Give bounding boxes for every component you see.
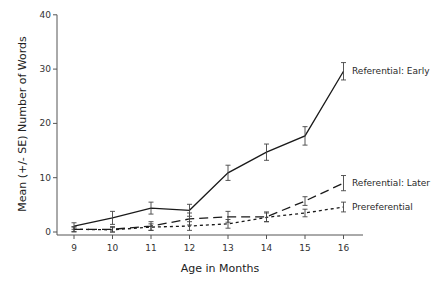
axes: 010203040910111213141516 [40,10,363,253]
error-bar [303,197,308,206]
y-tick-label: 10 [40,173,52,183]
x-tick-label: 14 [261,243,273,253]
x-tick-label: 11 [145,243,156,253]
x-tick-label: 13 [222,243,233,253]
x-tick-label: 12 [184,243,195,253]
error-bar [226,165,231,180]
error-bar [341,63,346,80]
error-bar [303,127,308,145]
series-group [72,63,347,232]
series-label-2: Prereferential [352,202,413,212]
x-tick-label: 10 [107,243,119,253]
series-label-1: Referential: Later [352,178,430,188]
y-tick-label: 0 [45,227,51,237]
error-bar [341,176,346,191]
error-bar [264,144,269,160]
error-bar [187,222,192,231]
y-tick-label: 20 [40,118,52,128]
x-tick-label: 16 [338,243,350,253]
x-axis-title: Age in Months [181,262,260,275]
series-label-0: Referential: Early [352,66,430,76]
error-bar [341,202,346,212]
x-tick-label: 9 [71,243,77,253]
line-chart: 010203040910111213141516 Referential: Ea… [0,0,435,295]
y-tick-label: 30 [40,64,52,74]
x-tick-label: 15 [299,243,310,253]
series-line-1 [74,183,344,229]
labels-group: Referential: EarlyReferential: LaterPrer… [352,66,430,212]
series-line-0 [74,71,344,226]
y-tick-label: 40 [40,10,52,20]
y-axis-title: Mean (+/- SE) Number of Words [16,36,29,212]
